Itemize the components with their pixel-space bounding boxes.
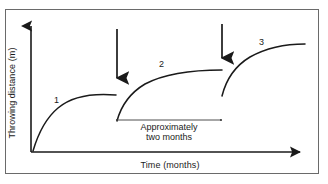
curve-label-2: 2 — [159, 59, 164, 69]
chart-plot — [0, 0, 328, 184]
figure-container: Throwing distance (m) Time (months) 1 2 … — [0, 0, 328, 184]
span-annotation: Approximately two months — [118, 122, 220, 142]
y-axis-label: Throwing distance (m) — [7, 38, 17, 148]
curve-label-3: 3 — [259, 37, 264, 47]
x-axis-label: Time (months) — [110, 160, 230, 170]
curve-segment-2 — [117, 70, 222, 121]
span-annotation-line2: two months — [118, 132, 220, 142]
curve-segment-3 — [222, 44, 305, 96]
span-annotation-line1: Approximately — [118, 122, 220, 132]
curve-label-1: 1 — [54, 95, 59, 105]
curve-segment-1 — [33, 94, 116, 151]
